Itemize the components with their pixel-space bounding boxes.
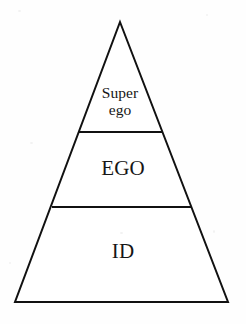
layer-label-superego-line2: ego: [60, 101, 180, 118]
layer-label-superego-line1: Super: [102, 84, 139, 101]
diagram-canvas: Superego EGO ID: [0, 0, 246, 324]
layer-label-id: ID: [53, 240, 193, 264]
layer-label-superego: Superego: [60, 84, 180, 119]
layer-label-ego: EGO: [53, 157, 193, 181]
